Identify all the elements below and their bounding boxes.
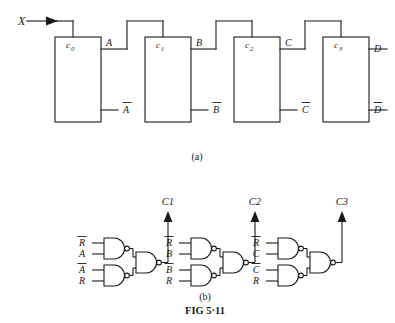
label-block-2-sub: 2 <box>250 45 254 52</box>
nand-gate-c2-merge <box>223 252 248 273</box>
x-input-arrow <box>27 17 58 26</box>
label-block-3: c <box>334 40 338 50</box>
svg-text:B: B <box>213 104 219 115</box>
label-block-0-sub: 0 <box>71 45 75 52</box>
nand-gate-c3-top <box>266 238 303 259</box>
ff-block-0 <box>55 37 101 122</box>
svg-text:A: A <box>122 104 130 115</box>
ff-block-1 <box>145 37 191 122</box>
cluster-c3-input-labels: R C C R <box>252 237 261 287</box>
figure-number: FIG 5·11 <box>185 305 225 316</box>
label-block-1: c <box>156 40 160 50</box>
label-output-c3: C3 <box>336 196 348 207</box>
nand-gate-c1-merge <box>136 252 161 273</box>
figure-container: X c 0 c 1 c 2 c 3 A B C D A B C D <box>0 0 395 323</box>
c1-in3: A <box>78 264 86 275</box>
caption-part-b: (b) <box>199 291 211 303</box>
cluster-c1-wires <box>129 249 136 276</box>
c3-output-line <box>335 211 346 263</box>
c2-in1: R <box>165 237 172 248</box>
label-out-abar: A <box>122 103 132 116</box>
nand-gate-c3-merge <box>310 252 335 273</box>
label-x-input: X <box>17 14 26 28</box>
cluster-c2 <box>179 211 259 286</box>
cluster-c3-wires <box>303 249 310 276</box>
cluster-c1-input-labels: R A A R <box>78 237 87 287</box>
label-out-cbar: C <box>302 103 311 116</box>
ff-block-2 <box>234 37 280 122</box>
label-block-3-sub: 3 <box>338 45 343 52</box>
label-out-a: A <box>105 37 113 48</box>
label-block-0: c <box>66 40 70 50</box>
nand-gate-c1-top <box>92 238 129 259</box>
cluster-c3 <box>266 211 346 286</box>
label-out-d: D <box>373 43 382 54</box>
c1-in4: R <box>78 275 85 286</box>
c2-in4: R <box>165 275 172 286</box>
label-block-2: c <box>245 40 249 50</box>
nand-gate-c1-bottom <box>92 265 129 286</box>
ff-block-3 <box>323 37 369 122</box>
label-output-c2: C2 <box>249 196 262 207</box>
svg-text:D: D <box>373 104 382 115</box>
label-out-bbar: B <box>213 103 222 116</box>
c3-in3: C <box>253 264 260 275</box>
label-block-1-sub: 1 <box>161 45 164 52</box>
label-out-c: C <box>285 37 292 48</box>
cluster-c2-input-labels: R B B R <box>165 237 174 287</box>
c1-in1: R <box>78 237 85 248</box>
c3-in4: R <box>252 275 259 286</box>
nand-gate-c3-bottom <box>266 265 303 286</box>
label-out-b: B <box>196 37 202 48</box>
nand-gate-c2-top <box>179 238 216 259</box>
svg-text:C: C <box>302 104 309 115</box>
nand-gate-c2-bottom <box>179 265 216 286</box>
caption-part-a: (a) <box>191 151 202 163</box>
c3-in2: C <box>253 248 260 259</box>
c2-in2: B <box>166 248 172 259</box>
cluster-c1 <box>92 211 172 286</box>
c2-in3: B <box>166 264 172 275</box>
label-out-dbar: D <box>373 103 383 116</box>
c3-in1: R <box>252 237 259 248</box>
label-output-c1: C1 <box>162 196 174 207</box>
part-a-group <box>27 17 387 123</box>
figure-canvas: X c 0 c 1 c 2 c 3 A B C D A B C D <box>0 0 395 323</box>
c1-in2: A <box>78 248 86 259</box>
cluster-c2-wires <box>216 249 223 276</box>
